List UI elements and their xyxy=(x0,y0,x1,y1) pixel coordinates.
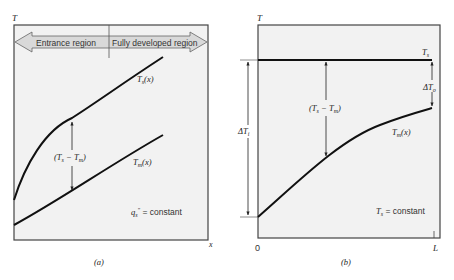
mean-temperature-label-b: Tm(x) xyxy=(392,127,411,138)
mean-temperature-label: Tm(x) xyxy=(133,157,152,168)
surface-temperature-label: Ts(x) xyxy=(137,74,154,85)
surface-temperature-condition: Ts = constant xyxy=(376,206,426,217)
x-end-label: L xyxy=(432,243,438,253)
panel-b: T 0 L Ts Tm(x) (Ts − Tm) ΔTo ΔTi Ts = co… xyxy=(237,13,440,267)
x-start-label: 0 xyxy=(255,243,260,253)
entrance-region-label: Entrance region xyxy=(36,38,96,48)
inlet-delta-label: ΔTi xyxy=(237,126,250,137)
panel-a-y-axis-label: T xyxy=(12,13,18,23)
panel-a-x-axis-label: x xyxy=(208,240,213,249)
panel-b-caption: (b) xyxy=(341,257,351,267)
figure: T x Entrance region Fully developed regi… xyxy=(0,0,454,280)
panel-b-y-axis-label: T xyxy=(257,13,263,23)
panel-a-caption: (a) xyxy=(94,257,104,267)
fully-developed-region-label: Fully developed region xyxy=(112,38,198,48)
panel-a: T x Entrance region Fully developed regi… xyxy=(12,13,213,267)
